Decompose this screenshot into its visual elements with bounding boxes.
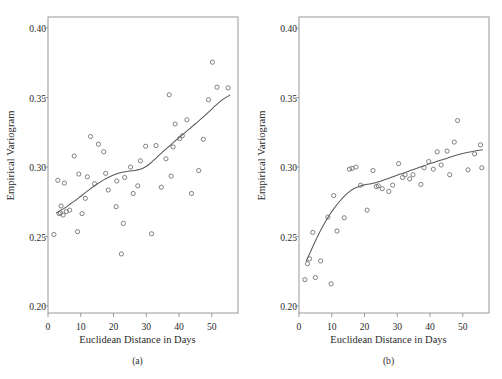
x-tick-label: 50 <box>207 321 217 332</box>
x-tick-labels-b: 01020304050 <box>251 0 502 379</box>
x-tick-label: 10 <box>76 321 86 332</box>
x-tick-label: 30 <box>392 321 402 332</box>
x-axis-label-b: Euclidean Distance in Days <box>281 334 496 345</box>
x-tick-label: 10 <box>327 321 337 332</box>
x-tick-label: 0 <box>297 321 302 332</box>
x-tick-label: 0 <box>46 321 51 332</box>
x-tick-label: 20 <box>109 321 119 332</box>
x-tick-label: 30 <box>141 321 151 332</box>
x-tick-label: 50 <box>458 321 468 332</box>
subcaption-a: (a) <box>30 355 245 366</box>
figure-two-panel-variogram: Empirical Variogram 0.200.250.300.350.40… <box>0 0 502 379</box>
x-tick-label: 40 <box>174 321 184 332</box>
panel-a: Empirical Variogram 0.200.250.300.350.40… <box>0 0 251 379</box>
panel-b: Empirical Variogram 0.200.250.300.350.40… <box>251 0 502 379</box>
x-tick-label: 20 <box>360 321 370 332</box>
x-axis-label-a: Euclidean Distance in Days <box>30 334 245 345</box>
x-tick-label: 40 <box>425 321 435 332</box>
subcaption-b: (b) <box>281 355 496 366</box>
x-tick-labels-a: 01020304050 <box>0 0 251 379</box>
